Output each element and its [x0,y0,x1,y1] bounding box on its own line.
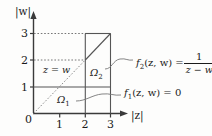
formula-f2-numerator: 1 [184,52,212,63]
formula-f2-fraction: 1z − w [184,52,212,75]
region-omega2-label: Ω2 [90,68,103,81]
leader-line-f2 [105,59,133,69]
y-tick-label-1: 1 [21,82,28,93]
x-tick-label-3: 3 [107,119,114,130]
function-domain-diagram: |w| |z| 0 1 2 3 1 2 3 z = w Ω1 Ω2 f2(z, … [0,0,212,136]
y-axis-label: |w| [15,6,31,17]
formula-f1: f1(z, w) = 0 [124,88,181,101]
formula-f2-arguments: (z, w) = [144,57,184,68]
y-tick-label-2: 2 [21,55,28,66]
region-omega1-subscript: 1 [65,100,69,108]
x-tick-label-2: 2 [82,119,89,130]
x-axis-label: |z| [131,110,144,121]
y-axis [30,11,36,113]
diagonal-label: z = w [43,65,70,75]
diagonal-solid-segment [85,34,110,61]
x-tick-label-1: 1 [56,119,63,130]
x-axis [33,110,128,116]
y-tick-label-3: 3 [21,28,28,39]
origin-tick-label: 0 [25,114,32,125]
formula-f1-arguments: (z, w) = 0 [132,87,181,98]
region-omega1-label: Ω1 [57,95,70,108]
formula-f2: f2(z, w) =1z − w [136,52,212,75]
leader-line-f1 [76,94,121,101]
region-omega2-subscript: 2 [98,73,102,81]
formula-f2-denominator: z − w [184,64,212,75]
